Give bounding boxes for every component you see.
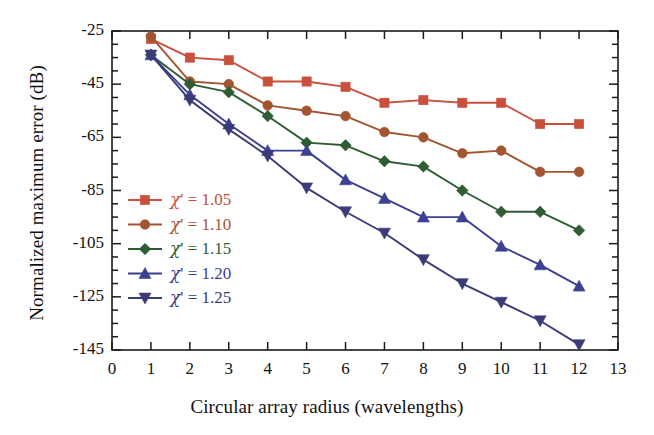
data-point-square	[574, 119, 583, 128]
x-tick-label: 13	[598, 359, 638, 379]
y-tick-label: -65	[40, 126, 104, 146]
y-tick-label: -145	[40, 339, 104, 359]
data-point-triangle-down	[301, 183, 313, 194]
x-tick-label: 0	[92, 359, 132, 379]
data-point-diamond	[573, 225, 585, 237]
x-tick-label: 6	[326, 359, 366, 379]
data-point-circle	[419, 133, 429, 143]
data-point-square	[140, 195, 149, 204]
data-point-triangle-down	[378, 228, 390, 239]
data-point-circle	[574, 167, 584, 177]
x-tick-label: 1	[131, 359, 171, 379]
x-tick-label: 12	[559, 359, 599, 379]
x-axis-title: Circular array radius (wavelengths)	[0, 396, 654, 418]
legend-entry-value: ' = 1.20	[180, 264, 231, 283]
legend-entry-value: ' = 1.05	[180, 190, 231, 209]
x-tick-label: 4	[248, 359, 288, 379]
data-point-square	[536, 119, 545, 128]
data-point-triangle-down	[573, 340, 585, 351]
data-point-triangle-down	[340, 207, 352, 218]
data-point-square	[302, 77, 311, 86]
data-point-circle	[457, 148, 467, 158]
x-tick-label: 10	[481, 359, 521, 379]
data-point-triangle-down	[184, 95, 196, 106]
legend-entry-1.10[interactable]: χ' = 1.10	[170, 214, 231, 235]
data-point-triangle-down	[534, 316, 546, 327]
chi-symbol: χ	[170, 238, 180, 258]
legend-entry-value: ' = 1.15	[180, 239, 231, 258]
y-tick-label: -85	[40, 180, 104, 200]
data-point-square	[458, 98, 467, 107]
data-point-diamond	[340, 140, 352, 152]
data-point-circle	[535, 167, 545, 177]
x-tick-label: 5	[287, 359, 327, 379]
y-tick-label: -25	[40, 20, 104, 40]
data-point-triangle-down	[495, 297, 507, 308]
data-point-triangle-down	[456, 279, 468, 290]
legend-entry-value: ' = 1.10	[180, 215, 231, 234]
chi-symbol: χ	[170, 287, 180, 307]
x-tick-label: 9	[442, 359, 482, 379]
series-1.05	[146, 34, 583, 128]
data-point-diamond	[139, 243, 151, 255]
y-tick-label: -105	[40, 233, 104, 253]
data-point-triangle-up	[573, 280, 585, 291]
data-point-square	[380, 98, 389, 107]
data-point-circle	[341, 111, 351, 121]
data-point-circle	[380, 127, 390, 137]
series-line	[151, 39, 579, 124]
x-tick-label: 3	[209, 359, 249, 379]
data-point-diamond	[457, 185, 469, 197]
data-point-circle	[140, 220, 150, 230]
series-1.10	[146, 31, 584, 176]
data-point-diamond	[223, 86, 235, 98]
data-point-triangle-up	[340, 174, 352, 185]
y-tick-label: -45	[40, 73, 104, 93]
data-point-diamond	[379, 156, 391, 168]
legend-entry-value: ' = 1.25	[180, 288, 231, 307]
data-point-square	[185, 53, 194, 62]
data-point-triangle-up	[534, 259, 546, 270]
legend-markers	[128, 195, 162, 304]
data-point-square	[497, 98, 506, 107]
chart-figure: Circular array radius (wavelengths) Norm…	[0, 0, 654, 435]
data-point-circle	[146, 31, 156, 41]
data-point-square	[341, 82, 350, 91]
data-point-square	[419, 96, 428, 105]
series-line	[151, 36, 579, 172]
data-point-square	[224, 56, 233, 65]
chi-symbol: χ	[170, 189, 180, 209]
data-point-triangle-up	[495, 240, 507, 251]
x-tick-label: 7	[364, 359, 404, 379]
data-point-circle	[302, 106, 312, 116]
data-point-circle	[263, 101, 273, 111]
data-point-triangle-up	[378, 192, 390, 203]
x-tick-label: 2	[170, 359, 210, 379]
chi-symbol: χ	[170, 263, 180, 283]
data-point-square	[263, 77, 272, 86]
data-point-diamond	[495, 206, 507, 218]
data-point-circle	[496, 146, 506, 156]
legend-entry-1.20[interactable]: χ' = 1.20	[170, 263, 231, 284]
data-point-diamond	[262, 110, 274, 122]
data-point-triangle-down	[417, 255, 429, 266]
x-tick-label: 11	[520, 359, 560, 379]
legend-entry-1.15[interactable]: χ' = 1.15	[170, 238, 231, 259]
x-tick-label: 8	[403, 359, 443, 379]
y-tick-label: -125	[40, 286, 104, 306]
legend-entry-1.05[interactable]: χ' = 1.05	[170, 189, 231, 210]
data-point-triangle-down	[223, 124, 235, 135]
data-point-diamond	[534, 206, 546, 218]
data-point-diamond	[418, 161, 430, 173]
legend-entry-1.25[interactable]: χ' = 1.25	[170, 287, 231, 308]
chi-symbol: χ	[170, 214, 180, 234]
